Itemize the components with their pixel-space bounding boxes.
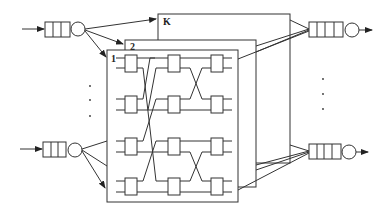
ellipsis-left (89, 85, 91, 117)
output-queue-bottom (309, 144, 341, 159)
output-queue-top (309, 22, 343, 37)
switch-element (211, 55, 223, 72)
server-icon (71, 22, 85, 36)
switch-element (211, 138, 223, 155)
switch-element (125, 96, 137, 113)
switch-element (168, 96, 180, 113)
server-icon (345, 23, 359, 37)
switch-element (168, 55, 180, 72)
server-icon (342, 145, 356, 159)
input-queue-top (45, 22, 70, 37)
plane-k-label: K (163, 16, 171, 27)
switch-element (125, 138, 137, 155)
plane-1: 1 (107, 50, 238, 202)
switch-element (211, 96, 223, 113)
input-port-bottom (20, 141, 107, 188)
switch-element (168, 138, 180, 155)
input-queue-bottom (43, 142, 66, 157)
server-icon (68, 143, 82, 157)
plane-1-label: 1 (111, 53, 116, 64)
switch-element (125, 178, 137, 195)
switch-fabric-diagram: K 2 1 (0, 0, 390, 217)
switch-element (211, 178, 223, 195)
switch-element (125, 55, 137, 72)
switch-element (168, 178, 180, 195)
ellipsis-right (322, 78, 324, 110)
